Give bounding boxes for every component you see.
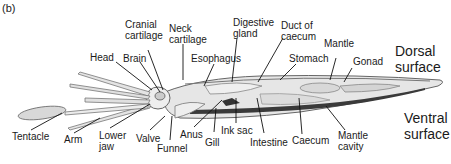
tentacle-club xyxy=(17,104,66,123)
label-funnel: Funnel xyxy=(157,143,188,154)
label-intestine: Intestine xyxy=(250,137,288,148)
label-duct-of-caecum: Duct of caecum xyxy=(281,20,316,42)
label-tentacle: Tentacle xyxy=(12,131,49,142)
label-mantle-cavity: Mantle cavity xyxy=(338,130,368,152)
label-neck-cartilage: Neck cartilage xyxy=(169,23,207,45)
label-ventral-surface: Ventral surface xyxy=(404,110,450,142)
label-anus: Anus xyxy=(180,129,203,140)
label-ink-sac: Ink sac xyxy=(221,125,253,136)
label-brain: Brain xyxy=(123,53,146,64)
arm-3 xyxy=(85,98,150,104)
label-cranial-cartilage: Cranial cartilage xyxy=(125,19,163,41)
label-gill: Gill xyxy=(205,137,219,148)
label-digestive-gland: Digestive gland xyxy=(233,17,274,39)
label-arm: Arm xyxy=(64,134,82,145)
label-dorsal-surface: Dorsal surface xyxy=(395,43,441,75)
label-mantle: Mantle xyxy=(324,38,354,49)
label-esophagus: Esophagus xyxy=(191,53,241,64)
label-stomach: Stomach xyxy=(289,53,328,64)
eye xyxy=(155,92,165,100)
label-caecum: Caecum xyxy=(292,135,329,146)
stomach-shape xyxy=(300,83,340,93)
label-lower-jaw: Lower jaw xyxy=(99,130,126,152)
label-gonad: Gonad xyxy=(353,56,383,67)
label-head: Head xyxy=(90,52,114,63)
